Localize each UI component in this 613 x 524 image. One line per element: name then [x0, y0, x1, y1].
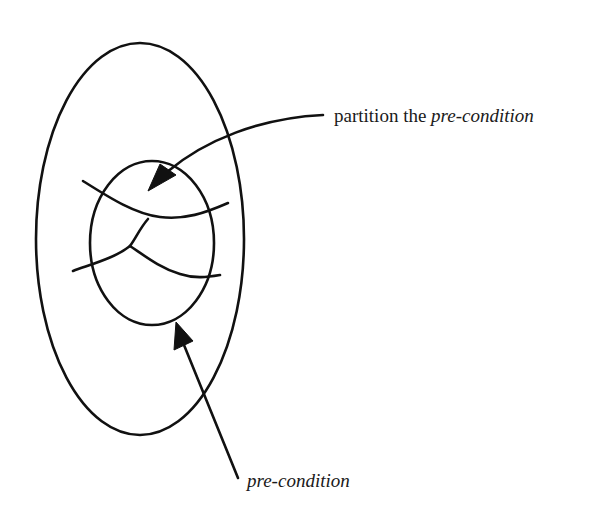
precondition-label: pre-condition: [247, 471, 350, 490]
arrow-precondition-head-icon: [174, 322, 193, 350]
arrow-partition-shaft: [167, 115, 323, 172]
partition-label-italic: pre-condition: [431, 105, 534, 126]
partition-diagram: [0, 0, 613, 524]
arrow-precondition-shaft: [184, 345, 238, 478]
partition-label-plain: partition the: [334, 105, 431, 126]
partition-line-branch: [130, 219, 148, 246]
partition-line-lower-left: [73, 246, 130, 271]
partition-label: partition the pre-condition: [334, 106, 534, 125]
partition-line-lower-right: [130, 246, 220, 277]
precondition-label-italic: pre-condition: [247, 470, 350, 491]
